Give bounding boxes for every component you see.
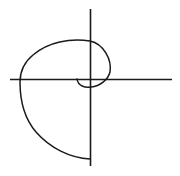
spiral-diagram — [0, 0, 180, 176]
spiral-curve — [20, 40, 110, 159]
